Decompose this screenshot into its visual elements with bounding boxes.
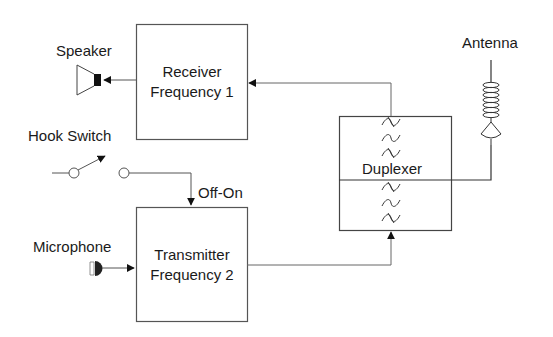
bandpass-filter-icon	[382, 117, 400, 158]
switch-to-transmitter-line	[129, 173, 191, 205]
duplexer-to-receiver-line	[249, 83, 391, 116]
speaker-label: Speaker	[56, 42, 112, 59]
antenna-label: Antenna	[462, 34, 518, 51]
receiver-label: Receiver Frequency 1	[136, 62, 248, 102]
bandpass-filter-icon	[382, 182, 400, 223]
transmitter-frequency: Frequency 2	[136, 265, 248, 285]
off-on-label: Off-On	[198, 184, 243, 201]
duplexer-label: Duplexer	[362, 160, 422, 177]
receiver-frequency: Frequency 1	[136, 82, 248, 102]
switch-icon	[52, 156, 129, 178]
speaker-icon	[77, 65, 101, 95]
microphone-icon	[90, 261, 103, 276]
antenna-icon	[481, 60, 501, 145]
transmitter-label: Transmitter Frequency 2	[136, 245, 248, 285]
transmitter-to-duplexer-line	[247, 232, 391, 265]
transmitter-title: Transmitter	[136, 245, 248, 265]
receiver-title: Receiver	[136, 62, 248, 82]
microphone-label: Microphone	[33, 238, 111, 255]
hook-switch-label: Hook Switch	[28, 127, 111, 144]
